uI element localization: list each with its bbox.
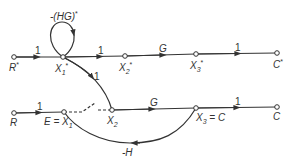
node-X1* <box>61 55 66 60</box>
gain-negH: -H <box>122 148 133 158</box>
label-X3-C: X3 = C <box>196 113 225 125</box>
gain-G-top: G <box>159 44 167 54</box>
node-R* <box>12 55 17 60</box>
gain-R*-X1*: 1 <box>35 46 41 56</box>
node-X2* <box>123 54 128 59</box>
edge-X1*-X2 <box>63 57 112 110</box>
label-E-X1: E = X1 <box>44 117 73 129</box>
node-C* <box>275 51 280 56</box>
label-X1*: X1* <box>55 62 68 76</box>
node-C <box>275 105 280 110</box>
gain-X1*-X2: 1 <box>94 72 100 82</box>
gain-X3=C-C: 1 <box>235 97 241 107</box>
label-R*: R* <box>9 61 19 73</box>
gain-R-E: 1 <box>37 102 43 112</box>
node-R <box>12 111 17 116</box>
node-X3* <box>194 52 199 57</box>
label-X2*: X2* <box>119 61 132 75</box>
label-X3*: X3* <box>190 59 203 73</box>
label-R: R <box>10 118 17 128</box>
sampler-switch <box>64 103 95 112</box>
graph-lines <box>0 0 293 164</box>
signal-flow-graph: -(HG)* 1 1 G 1 1 R* X1* X2* X3* C* 1 G 1… <box>0 0 293 164</box>
self-loop-X1* <box>50 22 74 57</box>
node-X3=C <box>194 106 199 111</box>
feedback-negH <box>64 108 196 143</box>
gain-X1*-X2*: 1 <box>98 46 104 56</box>
label-C*: C* <box>273 58 283 70</box>
loop-gain-label: -(HG)* <box>50 10 78 22</box>
node-X2 <box>110 108 115 113</box>
node-E <box>62 110 67 115</box>
gain-G-bottom: G <box>150 98 158 108</box>
gain-X3*-C*: 1 <box>235 43 241 53</box>
label-C: C <box>273 112 280 122</box>
label-X2: X2 <box>107 116 118 128</box>
